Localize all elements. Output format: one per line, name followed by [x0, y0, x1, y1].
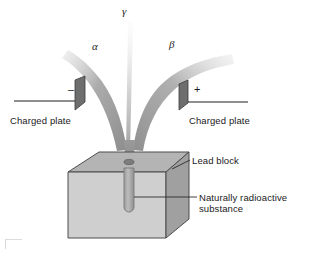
sample-label: Naturally radioactive substance	[199, 192, 311, 214]
beam-gamma	[126, 22, 133, 152]
lead-block	[68, 152, 189, 238]
sample-cavity	[124, 168, 134, 212]
bore-hole-opening	[124, 159, 134, 164]
lead-block-label: Lead block	[192, 155, 239, 166]
sample-label-line1: Naturally radioactive	[199, 192, 287, 203]
beam-label-alpha: α	[92, 41, 98, 52]
plate-label-left: Charged plate	[10, 115, 71, 126]
beam-group	[62, 22, 234, 172]
beam-label-gamma: γ	[122, 6, 126, 17]
plate-label-right: Charged plate	[189, 115, 250, 126]
plate-sign-positive: +	[194, 84, 200, 95]
radioactive-decay-diagram: α γ β – + Charged plate Charged plate Le…	[0, 0, 313, 255]
charged-plate-right	[179, 80, 248, 110]
charged-plate-left	[14, 76, 85, 110]
plate-face-left	[75, 76, 85, 110]
plate-face-right	[179, 80, 188, 110]
beam-label-beta: β	[169, 39, 174, 50]
scan-artifact	[5, 239, 22, 249]
plate-sign-negative: –	[68, 84, 74, 95]
sample-label-line2: substance	[199, 203, 243, 214]
diagram-canvas	[0, 0, 313, 255]
lead-block-front-face	[68, 172, 166, 238]
